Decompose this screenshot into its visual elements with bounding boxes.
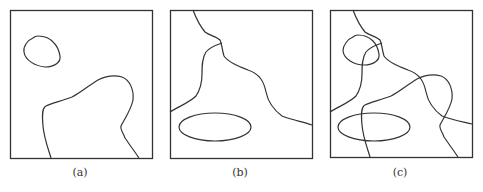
panel-a: (a) — [0, 0, 160, 192]
panel-b: (b) — [160, 0, 320, 192]
panel-c: (c) — [320, 0, 480, 192]
panel-a-caption: (a) — [0, 166, 160, 179]
panel-c-drawing — [320, 0, 483, 192]
panel-b-caption: (b) — [160, 166, 320, 179]
panel-c-caption: (c) — [320, 166, 480, 179]
panel-a-drawing — [0, 0, 160, 192]
panel-b-drawing — [160, 0, 320, 192]
